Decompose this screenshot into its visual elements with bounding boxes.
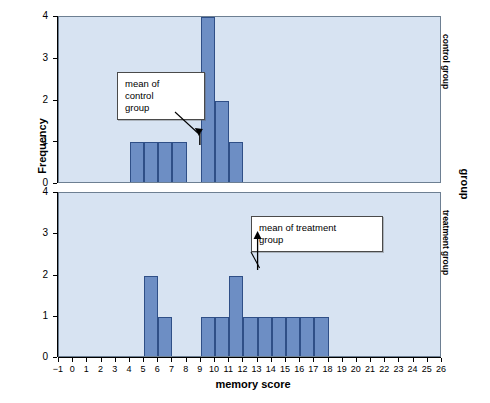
callout-arrow-treatment xyxy=(0,0,490,403)
chart-root: Frequency memory score group control gro… xyxy=(0,0,490,403)
